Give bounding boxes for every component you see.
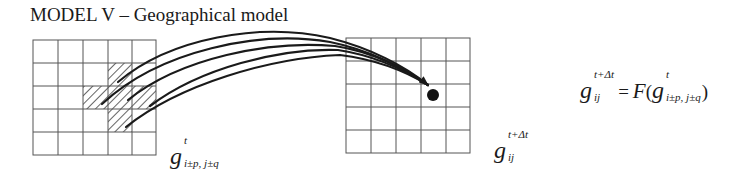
- transition-formula: gt+Δtij= F(gti±p, j±q): [580, 77, 708, 104]
- formula-lhs-symbol: g: [580, 77, 592, 103]
- formula-lhs-sub: ij: [594, 91, 600, 103]
- right-grid-label: gt+Δtij: [494, 137, 512, 164]
- formula-close-paren: ): [702, 81, 708, 102]
- target-cell-dot: [427, 89, 439, 101]
- label-symbol: g: [494, 137, 506, 163]
- label-symbol: g: [170, 143, 182, 169]
- formula-equals: =: [618, 81, 629, 102]
- transition-arrows: [102, 32, 428, 127]
- label-superscript: t+Δt: [508, 129, 528, 140]
- left-grid-label: gti±p, j±q: [170, 143, 217, 170]
- label-superscript: t: [184, 135, 187, 146]
- formula-lhs-sup: t+Δt: [594, 69, 614, 80]
- formula-function: F: [633, 79, 646, 103]
- label-subscript: ij: [508, 151, 514, 163]
- label-subscript: i±p, j±q: [184, 157, 219, 169]
- formula-arg-sup: t: [666, 69, 669, 80]
- formula-arg-symbol: g: [652, 77, 664, 103]
- formula-arg-sub: i±p, j±q: [666, 91, 701, 103]
